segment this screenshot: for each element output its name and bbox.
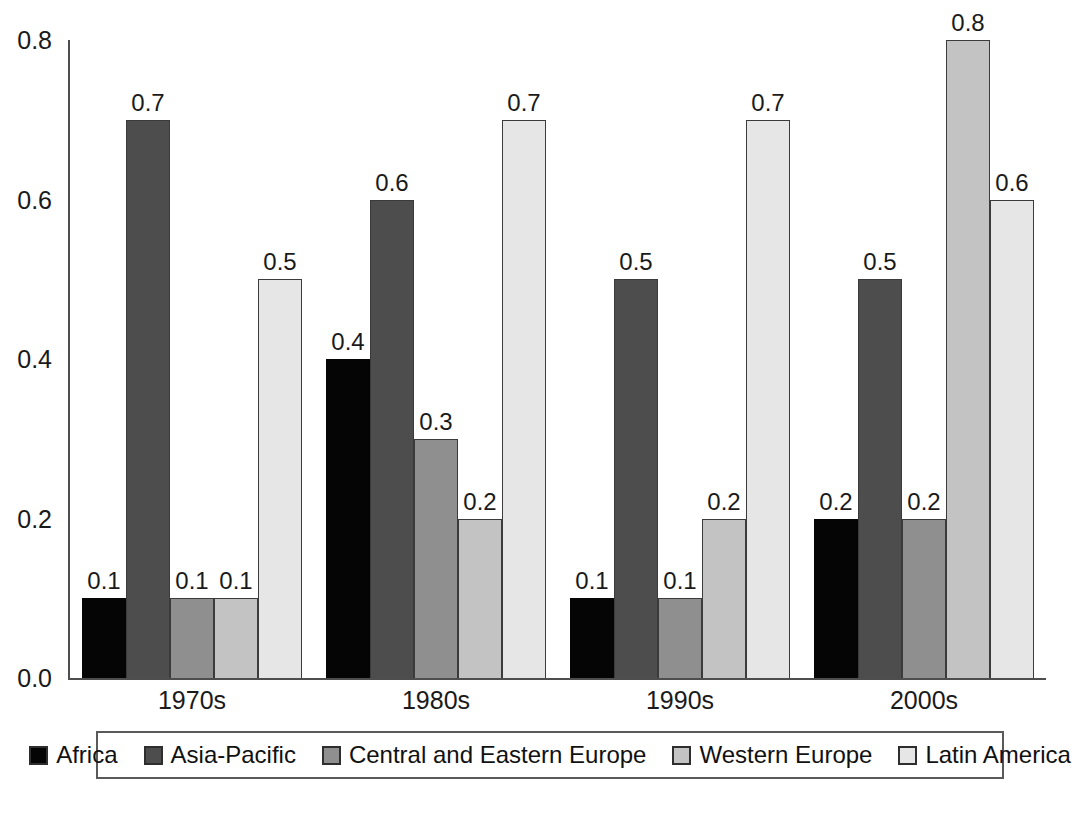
bar-slot: 0.1 xyxy=(214,40,258,678)
bar-group-1970s: 0.10.70.10.10.5 xyxy=(70,40,314,678)
bar-slot: 0.6 xyxy=(370,40,414,678)
legend-label: Latin America xyxy=(925,743,1070,767)
legend-swatch-icon xyxy=(322,746,341,765)
x-axis-tick-label-2000s: 2000s xyxy=(802,686,1046,714)
bar-slot: 0.4 xyxy=(326,40,370,678)
bar[interactable] xyxy=(126,120,170,678)
bar-value-label: 0.4 xyxy=(331,330,364,354)
bar-value-label: 0.1 xyxy=(175,569,208,593)
legend-swatch-icon xyxy=(898,746,917,765)
bar[interactable] xyxy=(746,120,790,678)
bar-value-label: 0.5 xyxy=(619,250,652,274)
bar[interactable] xyxy=(946,40,990,678)
bar-slot: 0.2 xyxy=(814,40,858,678)
bar-value-label: 0.1 xyxy=(87,569,120,593)
x-axis-labels: 1970s1980s1990s2000s xyxy=(70,686,1046,714)
x-axis-tick-label-1970s: 1970s xyxy=(70,686,314,714)
bar-group-1980s: 0.40.60.30.20.7 xyxy=(314,40,558,678)
bar-slot: 0.2 xyxy=(702,40,746,678)
bar-value-label: 0.2 xyxy=(463,490,496,514)
legend-item[interactable]: Western Europe xyxy=(672,743,872,767)
y-axis-tick-label: 0.2 xyxy=(17,506,52,531)
bar-slot: 0.2 xyxy=(458,40,502,678)
bar[interactable] xyxy=(414,439,458,678)
bar-value-label: 0.1 xyxy=(663,569,696,593)
bar-slot: 0.1 xyxy=(658,40,702,678)
bars: 0.20.50.20.80.6 xyxy=(814,40,1034,678)
legend: AfricaAsia-PacificCentral and Eastern Eu… xyxy=(96,731,1004,779)
x-axis-line xyxy=(68,678,1046,680)
legend-label: Central and Eastern Europe xyxy=(349,743,647,767)
bars: 0.10.70.10.10.5 xyxy=(82,40,302,678)
bar-slot: 0.7 xyxy=(126,40,170,678)
bar-slot: 0.3 xyxy=(414,40,458,678)
x-axis-tick-label-1980s: 1980s xyxy=(314,686,558,714)
bar-slot: 0.5 xyxy=(258,40,302,678)
bar[interactable] xyxy=(702,519,746,679)
bars: 0.40.60.30.20.7 xyxy=(326,40,546,678)
bar[interactable] xyxy=(458,519,502,679)
x-axis-tick-label-1990s: 1990s xyxy=(558,686,802,714)
bar-value-label: 0.1 xyxy=(575,569,608,593)
legend-label: Asia-Pacific xyxy=(171,743,296,767)
bar-slot: 0.2 xyxy=(902,40,946,678)
legend-label: Western Europe xyxy=(699,743,872,767)
bar[interactable] xyxy=(258,279,302,678)
legend-item[interactable]: Asia-Pacific xyxy=(144,743,296,767)
bar[interactable] xyxy=(858,279,902,678)
bar-value-label: 0.2 xyxy=(907,490,940,514)
legend-item[interactable]: Africa xyxy=(29,743,117,767)
bar-value-label: 0.6 xyxy=(375,171,408,195)
bar-value-label: 0.2 xyxy=(819,490,852,514)
bar-value-label: 0.3 xyxy=(419,410,452,434)
plot-area: 0.10.70.10.10.50.40.60.30.20.70.10.50.10… xyxy=(68,40,1046,680)
legend-item[interactable]: Latin America xyxy=(898,743,1070,767)
bar-slot: 0.7 xyxy=(746,40,790,678)
bar-value-label: 0.8 xyxy=(951,11,984,35)
bar[interactable] xyxy=(214,598,258,678)
bar-group-1990s: 0.10.50.10.20.7 xyxy=(558,40,802,678)
bar[interactable] xyxy=(658,598,702,678)
bar-slot: 0.8 xyxy=(946,40,990,678)
legend-label: Africa xyxy=(56,743,117,767)
y-axis-tick-label: 0.8 xyxy=(17,28,52,53)
bar-group-2000s: 0.20.50.20.80.6 xyxy=(802,40,1046,678)
bars: 0.10.50.10.20.7 xyxy=(570,40,790,678)
bar-slot: 0.7 xyxy=(502,40,546,678)
bar-value-label: 0.5 xyxy=(263,250,296,274)
y-axis-tick-label: 0.6 xyxy=(17,187,52,212)
bar[interactable] xyxy=(570,598,614,678)
bar-chart: 0.80.60.40.20.0 0.10.70.10.10.50.40.60.3… xyxy=(0,0,1089,818)
bar-slot: 0.1 xyxy=(570,40,614,678)
legend-swatch-icon xyxy=(144,746,163,765)
legend-swatch-icon xyxy=(29,746,48,765)
bar[interactable] xyxy=(502,120,546,678)
bar[interactable] xyxy=(170,598,214,678)
y-axis-tick-label: 0.0 xyxy=(17,666,52,691)
bar-value-label: 0.7 xyxy=(507,91,540,115)
bar-value-label: 0.7 xyxy=(751,91,784,115)
bar-slot: 0.1 xyxy=(82,40,126,678)
y-axis-labels: 0.80.60.40.20.0 xyxy=(0,40,60,680)
bar[interactable] xyxy=(326,359,370,678)
bar[interactable] xyxy=(82,598,126,678)
bar-groups: 0.10.70.10.10.50.40.60.30.20.70.10.50.10… xyxy=(70,40,1046,678)
bar[interactable] xyxy=(814,519,858,679)
bar[interactable] xyxy=(902,519,946,679)
bar[interactable] xyxy=(614,279,658,678)
bar[interactable] xyxy=(990,200,1034,679)
bar-slot: 0.1 xyxy=(170,40,214,678)
bar-slot: 0.5 xyxy=(858,40,902,678)
legend-swatch-icon xyxy=(672,746,691,765)
bar-slot: 0.6 xyxy=(990,40,1034,678)
bar-value-label: 0.2 xyxy=(707,490,740,514)
bar-value-label: 0.7 xyxy=(131,91,164,115)
bar-slot: 0.5 xyxy=(614,40,658,678)
y-axis-tick-label: 0.4 xyxy=(17,347,52,372)
bar-value-label: 0.5 xyxy=(863,250,896,274)
bar-value-label: 0.6 xyxy=(995,171,1028,195)
bar-value-label: 0.1 xyxy=(219,569,252,593)
bar[interactable] xyxy=(370,200,414,679)
legend-item[interactable]: Central and Eastern Europe xyxy=(322,743,647,767)
